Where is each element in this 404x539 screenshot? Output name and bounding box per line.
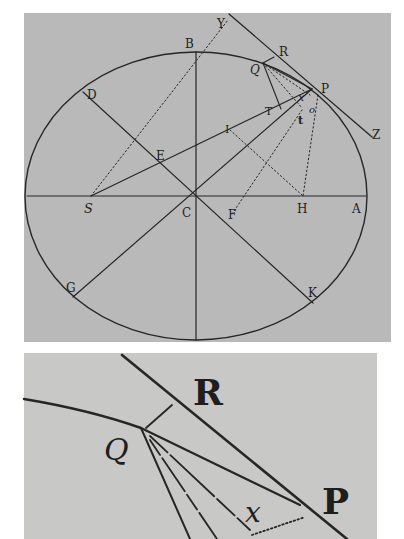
label-C: C (182, 206, 191, 220)
label-t: t (298, 114, 304, 127)
label-P: P (321, 82, 329, 96)
label-I: I (225, 123, 229, 136)
label-D: D (87, 88, 97, 102)
label-H: H (297, 202, 307, 216)
label-Y: Y (216, 17, 226, 31)
detail-label-R: R (193, 371, 224, 413)
detail-ellipse-arc (24, 399, 141, 428)
label-B: B (185, 37, 194, 51)
detail-line-QR (146, 405, 172, 428)
detail-label-Q: Q (104, 432, 129, 467)
detail-label-x: x (245, 496, 261, 529)
detail-line-QT (141, 428, 190, 539)
diagram-canvas: B Y R Q P D T x t o I Z E S C F H A G K … (0, 0, 404, 539)
label-A: A (351, 202, 361, 216)
label-R: R (279, 45, 289, 59)
label-K: K (308, 286, 318, 300)
detail-label-P: P (322, 480, 349, 522)
label-E: E (156, 149, 165, 163)
label-Z: Z (372, 128, 380, 142)
line-QP (263, 63, 312, 89)
label-Q: Q (250, 63, 260, 77)
label-F: F (228, 208, 236, 222)
diameter-GP (73, 89, 312, 297)
upper-diagram: B Y R Q P D T x t o I Z E S C F H A G K (25, 14, 380, 340)
line-SP (91, 89, 312, 196)
label-T: T (265, 105, 273, 118)
diameter-DK (83, 92, 313, 303)
line-QR (263, 57, 274, 63)
label-G: G (66, 281, 76, 295)
detail-line-QP (141, 428, 300, 505)
label-S: S (84, 201, 93, 216)
line-SY (91, 20, 228, 196)
lower-diagram: R Q P x (24, 355, 349, 539)
label-o: o (309, 104, 315, 115)
label-x: x (298, 91, 305, 104)
line-Ft (232, 110, 302, 214)
